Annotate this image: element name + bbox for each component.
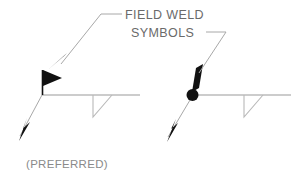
- right-weld-symbol-group: [167, 64, 291, 142]
- right-flag-triangle: [192, 64, 203, 92]
- left-weld-symbol-group: [19, 53, 140, 141]
- right-annotation-leader: [199, 32, 226, 73]
- field-weld-label-line2: SYMBOLS: [131, 26, 194, 40]
- field-weld-label-line1: FIELD WELD: [125, 8, 204, 22]
- left-annotation-leader: [61, 14, 122, 64]
- preferred-caption: (PREFERRED): [26, 158, 108, 170]
- figure-canvas: FIELD WELD SYMBOLS (PREFERRED): [0, 0, 300, 186]
- right-joint-dot: [187, 89, 199, 101]
- right-fillet-weld-triangle: [244, 95, 263, 117]
- left-fillet-weld-triangle: [93, 95, 112, 117]
- left-flag-triangle: [43, 70, 62, 86]
- left-annotation-arrowhead: [49, 53, 67, 69]
- weld-symbol-diagram: FIELD WELD SYMBOLS (PREFERRED): [0, 0, 300, 186]
